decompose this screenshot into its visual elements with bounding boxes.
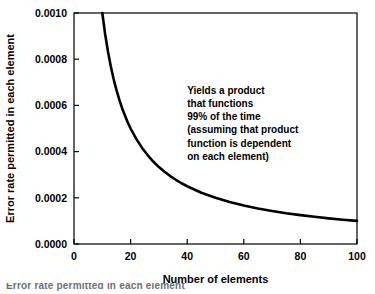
annotation-line: function is dependent [187, 138, 292, 149]
figure-caption-fragment: Error rate permitted in each element [6, 283, 185, 291]
y-tick-label: 0.0006 [35, 99, 67, 111]
y-tick-label: 0.0002 [35, 192, 67, 204]
annotation-line: on each element) [187, 151, 269, 162]
x-tick-label: 80 [295, 250, 307, 262]
annotation-line: 99% of the time [187, 111, 261, 122]
figure-caption-strip: Error rate permitted in each element [0, 283, 375, 294]
x-tick-label: 40 [181, 250, 193, 262]
x-tick-label: 100 [348, 250, 366, 262]
annotation-line: Yields a product [187, 85, 265, 96]
x-tick-label: 0 [71, 250, 77, 262]
y-tick-label: 0.0004 [35, 145, 67, 157]
annotation-line: (assuming that product [187, 124, 299, 135]
y-axis-title: Error rate permitted in each element [4, 34, 16, 223]
y-tick-label: 0.0010 [35, 7, 67, 19]
x-tick-label: 20 [125, 250, 137, 262]
x-tick-label: 60 [238, 250, 250, 262]
y-tick-label: 0.0008 [35, 53, 67, 65]
error-rate-line-chart: 0.00000.00020.00040.00060.00080.0010 020… [0, 0, 375, 294]
chart-figure: 0.00000.00020.00040.00060.00080.0010 020… [0, 0, 375, 294]
y-tick-label: 0.0000 [35, 238, 67, 250]
annotation-line: that functions [187, 98, 254, 109]
